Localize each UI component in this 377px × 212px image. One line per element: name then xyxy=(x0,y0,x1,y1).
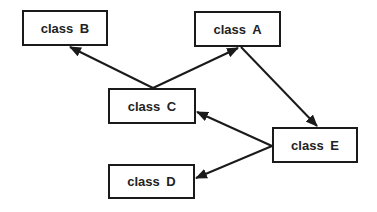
node-class-b: class B xyxy=(22,10,108,46)
edge-a-to-e xyxy=(241,47,317,126)
node-class-a: class A xyxy=(194,11,281,47)
edge-c-to-a xyxy=(153,48,238,88)
node-label: class D xyxy=(127,174,176,189)
node-label: class E xyxy=(291,138,339,153)
node-class-d: class D xyxy=(108,164,195,199)
node-class-e: class E xyxy=(272,127,358,163)
class-diagram: class B class A class C class D class E xyxy=(0,0,377,212)
node-label: class C xyxy=(128,99,177,114)
node-label: class B xyxy=(41,21,90,36)
node-class-c: class C xyxy=(108,88,196,124)
node-label: class A xyxy=(213,22,261,37)
edge-e-to-c xyxy=(197,112,272,146)
edge-e-to-d xyxy=(196,146,272,178)
edge-c-to-b xyxy=(70,47,153,88)
